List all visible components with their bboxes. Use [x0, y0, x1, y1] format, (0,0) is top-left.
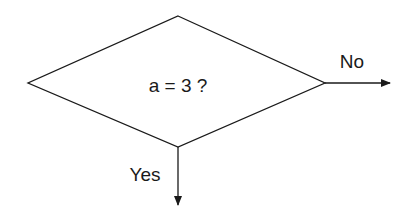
- no-branch-label: No: [340, 51, 364, 72]
- flowchart-canvas: a = 3 ? No Yes: [0, 0, 404, 214]
- yes-branch-label: Yes: [130, 164, 161, 185]
- decision-label: a = 3 ?: [149, 75, 208, 96]
